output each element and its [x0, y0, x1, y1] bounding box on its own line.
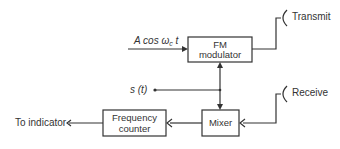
carrier-arrowhead: [182, 46, 188, 52]
frequency-counter-label-2: counter: [119, 123, 151, 134]
fm-modulator-label-2: modulator: [199, 49, 241, 60]
receive-label: Receive: [292, 87, 329, 98]
fm-radar-block-diagram: A cos ωc t FM modulator Transmit s (t) M…: [0, 0, 340, 149]
mixer-top-arrowhead: [217, 104, 223, 110]
transmit-feed-line: [252, 18, 281, 49]
mixer-label: Mixer: [209, 117, 232, 128]
carrier-label: A cos ωc t: [133, 35, 179, 47]
to-indicator-label: To indicator: [15, 117, 67, 128]
receive-antenna-icon: [283, 86, 287, 102]
transmit-antenna-icon: [283, 10, 287, 26]
transmit-label: Transmit: [292, 11, 331, 22]
frequency-counter-label-1: Frequency: [112, 112, 157, 123]
fm-input-arrowhead: [217, 62, 223, 68]
st-label: s (t): [130, 84, 147, 95]
receive-feed-line: [243, 94, 281, 123]
